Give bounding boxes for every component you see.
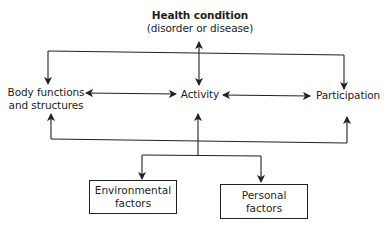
body-functions-line2: and structures <box>4 99 88 112</box>
personal-line1: Personal <box>242 189 287 202</box>
environmental-line2: factors <box>115 197 151 210</box>
participation-node: Participation <box>312 89 384 102</box>
body-functions-node: Body functions and structures <box>4 86 88 112</box>
activity-participation-arrow <box>223 95 310 96</box>
body-functions-line1: Body functions <box>4 86 88 99</box>
health-condition-title: Health condition <box>140 9 260 22</box>
body-activity-arrow <box>86 93 176 94</box>
environmental-factors-box: Environmental factors <box>89 180 177 214</box>
health-condition-subtitle: (disorder or disease) <box>140 22 260 35</box>
icf-diagram: Health condition (disorder or disease) B… <box>0 0 388 230</box>
activity-node: Activity <box>178 88 222 101</box>
personal-factors-box: Personal factors <box>220 184 308 219</box>
personal-line2: factors <box>246 202 282 215</box>
environmental-line1: Environmental <box>95 184 171 197</box>
